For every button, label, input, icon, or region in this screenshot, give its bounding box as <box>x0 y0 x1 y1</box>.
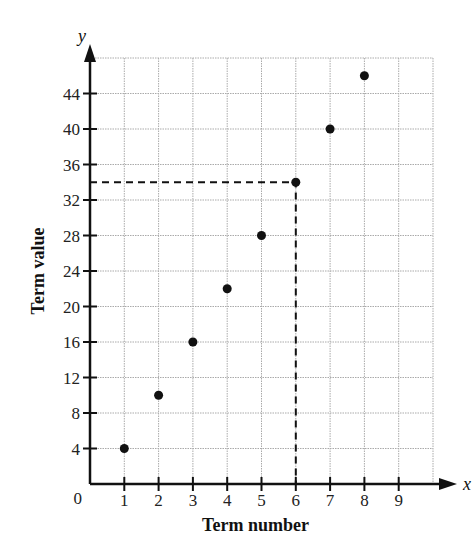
y-tick-label: 24 <box>63 262 81 281</box>
x-axis-variable: x <box>462 474 471 494</box>
y-tick-label: 4 <box>72 440 81 459</box>
x-tick-label: 2 <box>154 491 163 510</box>
y-tick-label: 44 <box>63 85 81 104</box>
x-tick-label: 7 <box>326 491 335 510</box>
scatter-chart: 123456789481216202428323640440xyTerm num… <box>0 0 476 557</box>
x-axis-label: Term number <box>202 515 309 535</box>
data-point <box>360 71 369 80</box>
y-tick-label: 20 <box>63 298 80 317</box>
x-tick-label: 6 <box>292 491 301 510</box>
y-tick-label: 36 <box>63 156 80 175</box>
x-tick-label: 9 <box>394 491 403 510</box>
x-tick-label: 5 <box>257 491 266 510</box>
data-point <box>188 338 197 347</box>
x-axis-arrow-icon <box>439 478 457 490</box>
grid <box>90 58 433 484</box>
x-tick-label: 8 <box>360 491 369 510</box>
data-point <box>154 391 163 400</box>
data-point <box>120 444 129 453</box>
data-point <box>257 231 266 240</box>
y-axis-arrow-icon <box>84 44 96 62</box>
y-tick-label: 8 <box>72 404 81 423</box>
data-point <box>291 178 300 187</box>
origin-label: 0 <box>74 489 83 508</box>
y-tick-label: 28 <box>63 227 80 246</box>
data-point <box>223 284 232 293</box>
x-tick-label: 1 <box>120 491 129 510</box>
y-tick-label: 16 <box>63 333 80 352</box>
y-tick-label: 12 <box>63 369 80 388</box>
data-point <box>326 125 335 134</box>
y-tick-label: 32 <box>63 191 80 210</box>
y-tick-label: 40 <box>63 120 80 139</box>
y-axis-label: Term value <box>28 228 48 315</box>
x-tick-label: 4 <box>223 491 232 510</box>
x-tick-label: 3 <box>189 491 198 510</box>
y-axis-variable: y <box>76 26 86 46</box>
